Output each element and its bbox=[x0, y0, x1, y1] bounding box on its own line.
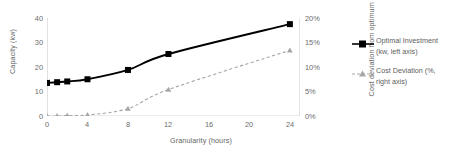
x-tick-12: 12 bbox=[156, 120, 180, 129]
plot-svg bbox=[47, 18, 300, 116]
y-right-tick-0pct: 0% bbox=[305, 112, 331, 121]
data-point-marker bbox=[125, 67, 131, 73]
y-left-tick-20: 20 bbox=[21, 63, 43, 72]
legend-marker-triangle-icon bbox=[352, 66, 374, 78]
y-right-tick-20pct: 20% bbox=[305, 14, 331, 23]
data-point-marker bbox=[54, 79, 60, 85]
data-point-marker bbox=[166, 87, 172, 92]
chart-figure: Capacity (kw) Cost deviation from optimu… bbox=[0, 0, 459, 153]
data-point-marker bbox=[125, 106, 131, 111]
y-right-tick-15pct: 15% bbox=[305, 38, 331, 47]
x-tick-16: 16 bbox=[197, 120, 221, 129]
data-point-marker bbox=[64, 78, 70, 84]
plot-area bbox=[47, 18, 300, 116]
data-point-marker bbox=[287, 21, 293, 27]
x-axis-title: Granularity (hours) bbox=[141, 136, 261, 145]
legend-label-optimal-investment: Optimal Investment (kw, left axis) bbox=[376, 36, 459, 57]
legend-label-cost-deviation: Cost Deviation (%, right axis) bbox=[376, 66, 459, 87]
legend-label-line2: right axis) bbox=[376, 77, 407, 86]
chart-legend: Optimal Investment (kw, left axis) Cost … bbox=[352, 36, 459, 96]
legend-item-optimal-investment: Optimal Investment (kw, left axis) bbox=[352, 36, 459, 57]
y-left-tick-30: 30 bbox=[21, 38, 43, 47]
data-point-marker bbox=[85, 112, 91, 116]
legend-label-line2: (kw, left axis) bbox=[376, 47, 418, 56]
data-point-marker bbox=[47, 80, 50, 86]
series-line-1 bbox=[47, 50, 290, 116]
y-right-tick-10pct: 10% bbox=[305, 63, 331, 72]
y-left-tick-40: 40 bbox=[21, 14, 43, 23]
x-tick-24: 24 bbox=[278, 120, 302, 129]
x-tick-4: 4 bbox=[75, 120, 99, 129]
data-point-marker bbox=[84, 76, 90, 82]
data-point-marker bbox=[165, 51, 171, 57]
x-tick-0: 0 bbox=[35, 120, 59, 129]
data-point-marker bbox=[287, 47, 293, 52]
y-axis-left-title: Capacity (kw) bbox=[8, 17, 17, 87]
y-left-tick-10: 10 bbox=[21, 87, 43, 96]
x-tick-8: 8 bbox=[116, 120, 140, 129]
y-right-tick-5pct: 5% bbox=[305, 87, 331, 96]
x-tick-20: 20 bbox=[237, 120, 261, 129]
legend-item-cost-deviation: Cost Deviation (%, right axis) bbox=[352, 66, 459, 87]
legend-label-line1: Optimal Investment bbox=[376, 36, 438, 45]
legend-marker-square-icon bbox=[352, 36, 374, 48]
legend-label-line1: Cost Deviation (%, bbox=[376, 66, 436, 75]
